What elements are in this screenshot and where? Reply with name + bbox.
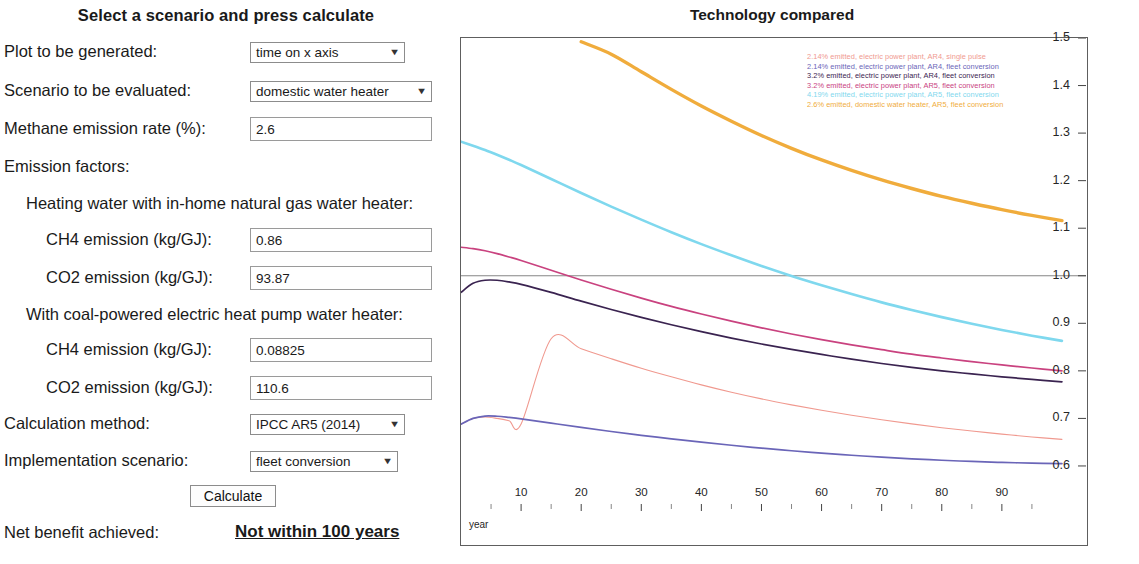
form-title: Select a scenario and press calculate [0, 6, 452, 25]
y-tick-label: 1.3 [1036, 125, 1070, 139]
legend-item-5: 2.6% emitted, domestic water heater, AR5… [807, 100, 1107, 110]
x-tick-label: 40 [686, 486, 716, 498]
plot-area: 2.14% emitted, electric power plant, AR4… [460, 37, 1088, 546]
series-line-2 [461, 280, 1062, 382]
form-row-heatpump-heading: With coal-powered electric heat pump wat… [0, 303, 452, 333]
label-gas-co2: CO2 emission (kg/GJ): [46, 268, 213, 287]
series-line-4 [461, 142, 1062, 341]
heatpump-co2-input[interactable]: 110.6 [250, 376, 432, 400]
label-plot: Plot to be generated: [4, 42, 157, 61]
implementation-value: fleet conversion [256, 454, 351, 469]
x-tick-label: 70 [867, 486, 897, 498]
legend-item-1: 2.14% emitted, electric power plant, AR4… [807, 62, 1107, 72]
methane-rate-input[interactable]: 2.6 [250, 117, 432, 141]
chart-title: Technology compared [452, 6, 1092, 24]
series-line-1 [461, 416, 1062, 464]
y-tick-label: 1.0 [1036, 268, 1070, 282]
scenario-select[interactable]: domestic water heater ▼ [250, 81, 432, 102]
methane-rate-value: 2.6 [256, 122, 275, 137]
x-tick-label: 60 [807, 486, 837, 498]
x-tick-label: 80 [927, 486, 957, 498]
chart-lines [461, 38, 1086, 544]
form-row-implementation: Implementation scenario: fleet conversio… [0, 449, 452, 479]
y-tick-label: 0.9 [1036, 315, 1070, 329]
chevron-down-icon: ▼ [389, 48, 400, 57]
y-tick-label: 1.1 [1036, 220, 1070, 234]
form-row-heatpump-co2: CO2 emission (kg/GJ): 110.6 [0, 376, 452, 406]
heatpump-co2-value: 110.6 [256, 381, 289, 396]
app-root: Select a scenario and press calculate Pl… [0, 0, 1139, 564]
x-tick-label: 90 [987, 486, 1017, 498]
calc-method-value: IPCC AR5 (2014) [256, 417, 360, 432]
gas-co2-value: 93.87 [256, 271, 290, 286]
label-calc-method: Calculation method: [4, 414, 150, 433]
x-tick-label: 20 [566, 486, 596, 498]
legend-item-4: 4.19% emitted, electric power plant, AR5… [807, 90, 1107, 100]
plot-select-value: time on x axis [256, 45, 339, 60]
label-emission-factors: Emission factors: [4, 157, 130, 176]
legend-item-0: 2.14% emitted, electric power plant, AR4… [807, 52, 1107, 62]
form-row-emission-factors-heading: Emission factors: [0, 155, 452, 185]
label-methane-rate: Methane emission rate (%): [4, 119, 206, 138]
implementation-select[interactable]: fleet conversion ▼ [250, 451, 398, 472]
y-tick-label: 1.2 [1036, 173, 1070, 187]
y-tick-label: 0.7 [1036, 410, 1070, 424]
plot-select[interactable]: time on x axis ▼ [250, 42, 405, 63]
gas-co2-input[interactable]: 93.87 [250, 266, 432, 290]
label-scenario: Scenario to be evaluated: [4, 81, 191, 100]
label-gas-heater-group: Heating water with in-home natural gas w… [26, 194, 413, 213]
chevron-down-icon: ▼ [382, 457, 393, 466]
x-tick-label: 50 [746, 486, 776, 498]
calculate-button[interactable]: Calculate [190, 485, 276, 507]
y-tick-label: 1.5 [1036, 30, 1070, 44]
form-row-heatpump-ch4: CH4 emission (kg/GJ): 0.08825 [0, 338, 452, 368]
scenario-select-value: domestic water heater [256, 84, 389, 99]
x-axis-title: year [469, 519, 488, 530]
form-row-gas-ch4: CH4 emission (kg/GJ): 0.86 [0, 228, 452, 258]
form-row-gas-heater-heading: Heating water with in-home natural gas w… [0, 192, 452, 222]
label-heatpump-group: With coal-powered electric heat pump wat… [26, 305, 403, 324]
form-row-plot: Plot to be generated: time on x axis ▼ [0, 40, 452, 70]
label-heatpump-ch4: CH4 emission (kg/GJ): [46, 340, 212, 359]
form-row-scenario: Scenario to be evaluated: domestic water… [0, 79, 452, 109]
chevron-down-icon: ▼ [416, 87, 427, 96]
label-heatpump-co2: CO2 emission (kg/GJ): [46, 378, 213, 397]
calc-method-select[interactable]: IPCC AR5 (2014) ▼ [250, 414, 405, 435]
form-row-methane-rate: Methane emission rate (%): 2.6 [0, 117, 452, 147]
chevron-down-icon: ▼ [389, 420, 400, 429]
heatpump-ch4-value: 0.08825 [256, 343, 305, 358]
x-tick-label: 10 [506, 486, 536, 498]
gas-ch4-input[interactable]: 0.86 [250, 228, 432, 252]
form-row-calc-method: Calculation method: IPCC AR5 (2014) ▼ [0, 412, 452, 442]
net-benefit-value: Not within 100 years [235, 522, 399, 542]
gas-ch4-value: 0.86 [256, 233, 282, 248]
form-row-gas-co2: CO2 emission (kg/GJ): 93.87 [0, 266, 452, 296]
label-gas-ch4: CH4 emission (kg/GJ): [46, 230, 212, 249]
x-tick-label: 30 [626, 486, 656, 498]
label-net-benefit: Net benefit achieved: [4, 523, 159, 542]
label-implementation: Implementation scenario: [4, 451, 188, 470]
heatpump-ch4-input[interactable]: 0.08825 [250, 338, 432, 362]
scenario-form-panel: Select a scenario and press calculate Pl… [0, 0, 452, 564]
y-tick-label: 0.6 [1036, 458, 1070, 472]
chart-panel: Technology compared 2.14% emitted, elect… [452, 0, 1139, 564]
y-tick-label: 0.8 [1036, 363, 1070, 377]
y-tick-label: 1.4 [1036, 78, 1070, 92]
